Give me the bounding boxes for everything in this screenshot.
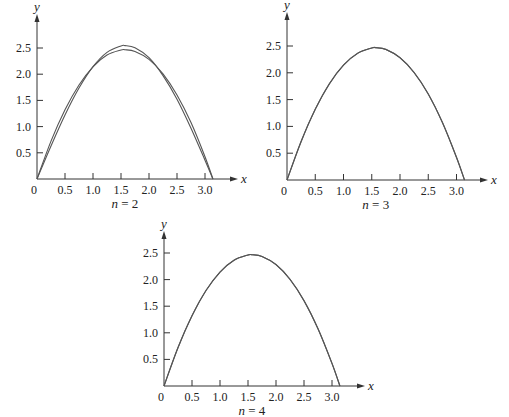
panel-caption: n = 3 bbox=[362, 197, 389, 212]
x-tick-label: 0.5 bbox=[58, 183, 73, 197]
panel-n3: xy00.51.01.52.02.53.00.51.01.52.02.5n = … bbox=[266, 0, 497, 212]
x-tick-label: 1.0 bbox=[336, 184, 351, 198]
figure: xy00.51.01.52.02.53.00.51.01.52.02.5n = … bbox=[0, 0, 509, 417]
x-tick-label: 3.0 bbox=[325, 390, 340, 404]
y-tick-label: 1.0 bbox=[16, 120, 31, 134]
x-axis-label: x bbox=[367, 378, 374, 393]
panel-n4: xy00.51.01.52.02.53.00.51.01.52.02.5n = … bbox=[143, 216, 374, 417]
x-tick-label: 1.0 bbox=[86, 183, 101, 197]
approximation-curve bbox=[164, 254, 340, 386]
y-axis-arrow-icon bbox=[35, 14, 40, 22]
approximation-curve bbox=[287, 47, 465, 180]
x-tick-label: 1.5 bbox=[241, 390, 256, 404]
x-tick-label: 1.5 bbox=[114, 183, 129, 197]
x-tick-label: 1.5 bbox=[364, 184, 379, 198]
x-tick-label: 1.0 bbox=[213, 390, 228, 404]
y-tick-label: 2.0 bbox=[266, 66, 281, 80]
y-tick-label: 1.5 bbox=[266, 93, 281, 107]
x-tick-label: 3.0 bbox=[198, 183, 213, 197]
x-tick-label: 3.0 bbox=[449, 184, 464, 198]
x-axis-arrow-icon bbox=[357, 384, 365, 389]
y-tick-label: 1.5 bbox=[143, 299, 158, 313]
y-axis-arrow-icon bbox=[162, 231, 167, 239]
x-tick-label: 2.5 bbox=[421, 184, 436, 198]
x-tick-label: 2.0 bbox=[269, 390, 284, 404]
x-axis-arrow-icon bbox=[480, 178, 488, 183]
x-axis-label: x bbox=[490, 172, 497, 187]
panel-n2: xy00.51.01.52.02.53.00.51.01.52.02.5n = … bbox=[16, 0, 247, 211]
x-tick-label: 0 bbox=[281, 184, 287, 198]
x-tick-label: 2.5 bbox=[297, 390, 312, 404]
y-tick-label: 1.5 bbox=[16, 93, 31, 107]
x-tick-label: 0.5 bbox=[185, 390, 200, 404]
panel-caption: n = 4 bbox=[239, 403, 266, 417]
y-tick-label: 0.5 bbox=[266, 146, 281, 160]
y-tick-label: 1.0 bbox=[143, 326, 158, 340]
panel-caption: n = 2 bbox=[112, 196, 139, 211]
y-tick-label: 2.0 bbox=[143, 273, 158, 287]
y-axis-label: y bbox=[159, 216, 167, 231]
x-tick-label: 0 bbox=[31, 183, 37, 197]
y-axis-arrow-icon bbox=[285, 12, 290, 20]
x-tick-label: 0.5 bbox=[308, 184, 323, 198]
x-tick-label: 0 bbox=[158, 390, 164, 404]
x-tick-label: 2.5 bbox=[170, 183, 185, 197]
y-tick-label: 0.5 bbox=[16, 146, 31, 160]
y-tick-label: 1.0 bbox=[266, 119, 281, 133]
x-tick-label: 2.0 bbox=[142, 183, 157, 197]
y-tick-label: 2.5 bbox=[143, 246, 158, 260]
x-axis-arrow-icon bbox=[230, 177, 238, 182]
y-tick-label: 2.5 bbox=[266, 39, 281, 53]
function-curve bbox=[37, 49, 213, 179]
y-axis-label: y bbox=[32, 0, 40, 14]
y-tick-label: 2.5 bbox=[16, 41, 31, 55]
x-axis-label: x bbox=[240, 171, 247, 186]
y-tick-label: 0.5 bbox=[143, 352, 158, 366]
x-tick-label: 2.0 bbox=[393, 184, 408, 198]
y-axis-label: y bbox=[282, 0, 290, 12]
y-tick-label: 2.0 bbox=[16, 67, 31, 81]
